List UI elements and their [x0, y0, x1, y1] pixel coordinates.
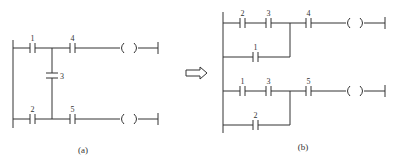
contact-label: 5: [307, 77, 311, 86]
contact-label: 3: [60, 72, 64, 81]
contact-1: 1: [240, 77, 245, 96]
caption-b: (b): [298, 142, 309, 152]
contact-label: 1: [254, 43, 258, 52]
panel-b: 2 3 4: [223, 9, 385, 152]
hollow-right-arrow-icon: [186, 67, 207, 79]
contact-3: 3: [266, 9, 271, 28]
contact-5: 5: [70, 105, 75, 124]
contact-5: 5: [306, 77, 311, 96]
contact-label: 4: [307, 9, 311, 18]
contact-4: 4: [306, 9, 311, 28]
contact-label: 2: [31, 105, 35, 114]
contact-label: 2: [254, 111, 258, 120]
rung-a2: 2 5: [13, 105, 158, 125]
panel-a: 1 4 3: [13, 34, 158, 155]
rung-b1: 2 3 4: [223, 9, 385, 62]
contact-3: 3: [266, 77, 271, 96]
contact-label: 1: [31, 34, 35, 43]
parallel-branch-contact-2: 2: [223, 91, 290, 130]
contact-label: 1: [241, 77, 245, 86]
contact-4: 4: [70, 34, 75, 53]
coil-icon: [122, 43, 137, 53]
contact-label: 3: [267, 9, 271, 18]
contact-label: 4: [71, 34, 75, 43]
rung-a1: 1 4: [13, 34, 158, 54]
rung-b2: 1 3 5: [223, 77, 385, 130]
coil-icon: [348, 86, 363, 96]
contact-label: 5: [71, 105, 75, 114]
contact-1: 1: [30, 34, 35, 53]
bridge-contact-3: 3: [46, 48, 64, 119]
coil-icon: [122, 114, 137, 124]
ladder-diagram: 1 4 3: [0, 0, 395, 162]
coil-icon: [348, 18, 363, 28]
contact-label: 3: [267, 77, 271, 86]
contact-2: 2: [30, 105, 35, 124]
contact-2: 2: [240, 9, 245, 28]
caption-a: (a): [78, 145, 88, 155]
parallel-branch-contact-1: 1: [223, 23, 290, 62]
contact-label: 2: [241, 9, 245, 18]
